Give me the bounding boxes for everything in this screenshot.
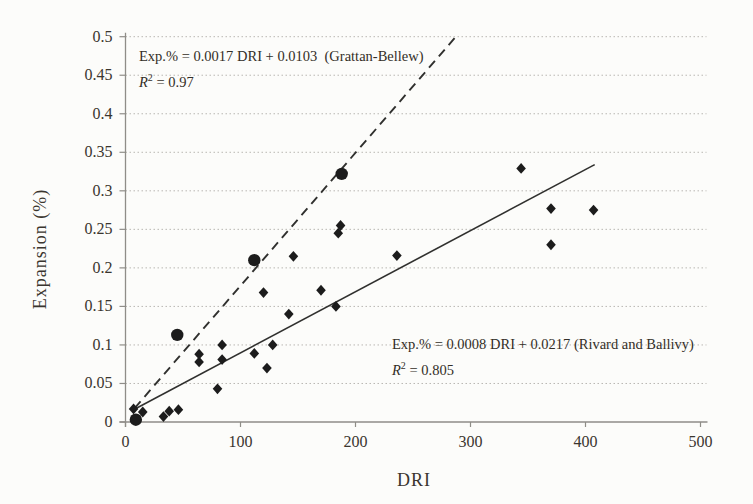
y-tick-label: 0.5: [39, 28, 113, 46]
data-point-diamond: [250, 348, 260, 359]
grattan-bellew-annotation: Exp.% = 0.0017 DRI + 0.0103 (Grattan-Bel…: [139, 43, 424, 95]
x-tick-label: 300: [443, 433, 499, 451]
x-tick-label: 400: [558, 433, 614, 451]
data-point-diamond: [546, 203, 556, 214]
x-tick-label: 500: [673, 433, 729, 451]
y-tick-label: 0.45: [39, 66, 113, 84]
x-tick-label: 200: [328, 433, 384, 451]
data-point-diamond: [516, 163, 526, 174]
y-tick-label: 0.35: [39, 143, 113, 161]
y-tick-label: 0.1: [39, 336, 113, 354]
data-point-diamond: [392, 250, 402, 261]
data-point-diamond: [316, 285, 326, 296]
grattan-bellew-r-squared: R2 = 0.97: [139, 69, 424, 95]
data-point-circle: [171, 329, 183, 341]
data-point-diamond: [331, 301, 341, 312]
x-tick-label: 0: [98, 433, 154, 451]
y-axis-title-text: Expansion (%): [30, 189, 51, 309]
scatter-chart-figure: 00.050.10.150.20.250.30.350.40.450.5 010…: [0, 0, 753, 504]
data-point-diamond: [259, 287, 269, 298]
data-point-diamond: [262, 363, 272, 374]
data-point-diamond: [213, 383, 223, 394]
data-point-diamond: [268, 340, 278, 351]
data-point-circle: [130, 413, 142, 425]
x-tick-label: 100: [213, 433, 269, 451]
y-tick-label: 0.4: [39, 105, 113, 123]
x-axis-title: DRI: [364, 470, 464, 491]
data-point-circle: [336, 168, 348, 180]
data-point-diamond: [546, 239, 556, 250]
grattan-bellew-equation-text: Exp.% = 0.0017 DRI + 0.0103 (Grattan-Bel…: [139, 43, 424, 69]
x-axis-title-text: DRI: [397, 470, 431, 490]
rivard-ballivy-r-squared: R2 = 0.805: [392, 357, 694, 383]
y-tick-label: 0: [39, 413, 113, 431]
data-point-circle: [248, 254, 260, 266]
data-point-diamond: [589, 205, 599, 216]
data-point-diamond: [217, 340, 227, 351]
data-point-diamond: [289, 251, 299, 262]
rivard-ballivy-annotation: Exp.% = 0.0008 DRI + 0.0217 (Rivard and …: [392, 331, 694, 383]
data-point-diamond: [284, 309, 294, 320]
y-tick-label: 0.05: [39, 374, 113, 392]
data-point-diamond: [194, 349, 204, 360]
data-point-diamond: [174, 404, 184, 415]
rivard-ballivy-equation-text: Exp.% = 0.0008 DRI + 0.0217 (Rivard and …: [392, 331, 694, 357]
data-point-diamond: [217, 354, 227, 365]
